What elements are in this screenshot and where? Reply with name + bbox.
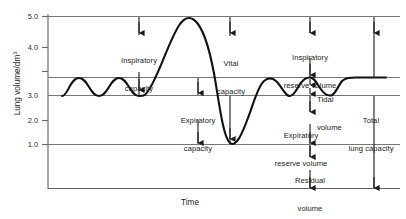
ytick-label-4: 4.0 (22, 43, 38, 52)
annotation-total-lung-capacity: Total lung capacity (337, 97, 405, 172)
spirometer-lung-volume-chart: 5.0 4.0 3.0 2.0 1.0 Lung volume/dm3 Time… (0, 0, 406, 219)
y-axis-title-exponent: 3 (12, 51, 18, 54)
annotation-residual-volume: Residual volume (274, 157, 346, 219)
annotation-expiratory-capacity-line2: capacity (155, 144, 241, 153)
ytick-label-3: 3.0 (22, 91, 38, 100)
annotation-residual-volume-line2: volume (274, 204, 346, 213)
annotation-residual-volume-line1: Residual (274, 176, 346, 185)
annotation-tlc-line2: lung capacity (337, 144, 405, 153)
annotation-tlc-line1: Total (337, 116, 405, 125)
annotation-vital-capacity-line2: capacity (205, 87, 257, 96)
ytick-label-5: 5.0 (22, 12, 38, 21)
y-axis-title-text: Lung volume/dm (13, 55, 22, 116)
annotation-expiratory-capacity-line1: Expiratory (155, 116, 241, 125)
annotation-inspiratory-capacity-line1: Inspiratory (96, 56, 182, 65)
annotation-irv-line1: Inspiratory (266, 53, 354, 62)
annotation-erv-line1: Expiratory (256, 131, 346, 140)
annotation-vital-capacity-line1: Vital (205, 59, 257, 68)
x-axis-title: Time (160, 198, 220, 207)
annotation-expiratory-capacity: Expiratory capacity (155, 97, 241, 172)
y-axis-ticks (42, 17, 48, 145)
annotation-inspiratory-capacity-line2: capacity (96, 84, 182, 93)
ytick-label-2: 2.0 (22, 116, 38, 125)
y-axis-title: Lung volume/dm3 (12, 33, 23, 133)
ytick-label-1: 1.0 (22, 140, 38, 149)
